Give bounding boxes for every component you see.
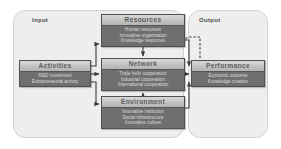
box-environment-header: Environment	[102, 97, 184, 108]
box-network-item: International cooperation	[118, 82, 169, 88]
box-activities-body: R&D investment Entrepreneurial activity	[20, 72, 90, 86]
box-performance[interactable]: Performance Economic outcome Knowledge c…	[191, 60, 265, 87]
box-network-title: Network	[129, 61, 157, 68]
box-activities-title: Activities	[39, 63, 72, 70]
box-performance-title: Performance	[206, 63, 250, 70]
box-network-header: Network	[102, 59, 184, 70]
box-environment[interactable]: Environment Innovative institution Socia…	[101, 96, 185, 129]
box-environment-body: Innovative institution Social infrastruc…	[102, 108, 184, 128]
box-network-body: Triple helix cooperation Industrial coop…	[102, 70, 184, 90]
box-activities[interactable]: Activities R&D investment Entrepreneuria…	[19, 60, 91, 87]
box-performance-header: Performance	[192, 61, 264, 72]
box-resources-body: Human resources Innovative organization …	[102, 26, 184, 46]
box-activities-header: Activities	[20, 61, 90, 72]
panel-label-input: Input	[32, 17, 48, 23]
box-environment-item: Innovative culture	[125, 120, 161, 126]
box-resources-item: Knowledge resources	[121, 38, 165, 44]
box-performance-item: Knowledge creation	[208, 79, 248, 85]
diagram-canvas: Input Output	[0, 0, 281, 149]
box-network[interactable]: Network Triple helix cooperation Industr…	[101, 58, 185, 91]
panel-label-output: Output	[199, 17, 220, 23]
box-resources-title: Resources	[125, 17, 162, 24]
box-resources[interactable]: Resources Human resources Innovative org…	[101, 14, 185, 47]
box-activities-item: Entrepreneurial activity	[32, 79, 79, 85]
box-environment-title: Environment	[121, 99, 165, 106]
box-resources-header: Resources	[102, 15, 184, 26]
box-performance-body: Economic outcome Knowledge creation	[192, 72, 264, 86]
